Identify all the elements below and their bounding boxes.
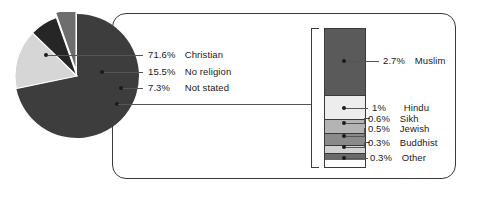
chart-figure: 71.6% Christian 15.5% No religion 7.3% N… xyxy=(0,0,478,197)
pie-label-no-religion-pct: 15.5% xyxy=(148,66,182,77)
bar-label-buddhist-name: Buddhist xyxy=(400,137,438,148)
pie-svg xyxy=(13,12,145,144)
pie-label-christian-name: Christian xyxy=(185,49,223,60)
pie-leader-not-stated xyxy=(123,88,143,89)
bar-leader-hindu xyxy=(346,108,368,109)
pie-label-christian-pct: 71.6% xyxy=(148,49,182,60)
bar-leader-other xyxy=(346,158,368,159)
bar-label-jewish-name: Jewish xyxy=(400,123,430,134)
bar-label-hindu: 1% Hindu xyxy=(372,102,429,113)
bar-label-jewish: 0.5% Jewish xyxy=(368,123,429,134)
bar-label-hindu-name: Hindu xyxy=(404,102,429,113)
bar-label-other-pct: 0.3% xyxy=(370,152,399,163)
bar-label-muslim: 2.7% Muslim xyxy=(383,55,445,66)
bar-label-buddhist-pct: 0.3% xyxy=(368,137,397,148)
bar-label-buddhist: 0.3% Buddhist xyxy=(368,137,438,148)
pie-chart xyxy=(13,12,145,144)
pie-leader-no-religion xyxy=(104,72,143,73)
pie-label-not-stated: 7.3% Not stated xyxy=(148,82,229,93)
bar-leader-muslim xyxy=(346,61,379,62)
pie-to-breakout-connector xyxy=(118,104,311,105)
pie-label-no-religion-name: No religion xyxy=(185,66,232,77)
bar-label-other-name: Other xyxy=(402,152,426,163)
bar-leader-sikh xyxy=(346,123,364,124)
pie-leader-christian xyxy=(48,55,143,56)
bar-label-other: 0.3% Other xyxy=(370,152,426,163)
bar-leader-jewish xyxy=(346,136,364,137)
bar-label-jewish-pct: 0.5% xyxy=(368,123,397,134)
pie-label-christian: 71.6% Christian xyxy=(148,49,223,60)
bar-leader-buddhist xyxy=(346,147,364,148)
bar-label-muslim-pct: 2.7% xyxy=(383,55,412,66)
bar-label-hindu-pct: 1% xyxy=(372,102,401,113)
bar-elbow-jewish xyxy=(364,128,365,137)
bar-label-muslim-name: Muslim xyxy=(415,55,446,66)
breakout-bracket xyxy=(311,28,319,168)
pie-label-not-stated-name: Not stated xyxy=(185,82,229,93)
pie-label-not-stated-pct: 7.3% xyxy=(148,82,182,93)
pie-label-no-religion: 15.5% No religion xyxy=(148,66,231,77)
